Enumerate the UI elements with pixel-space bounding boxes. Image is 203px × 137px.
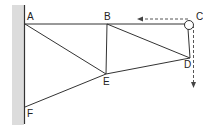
pulley-icon	[185, 21, 194, 30]
label-d: D	[184, 60, 191, 70]
arrowhead-down-icon	[191, 82, 196, 88]
member-ae	[25, 24, 106, 74]
member-be	[106, 24, 107, 74]
member-bd	[107, 24, 190, 58]
member-fe	[25, 74, 106, 107]
arrowhead-left-icon	[137, 17, 143, 22]
label-a: A	[27, 12, 34, 22]
label-e: E	[103, 77, 110, 87]
label-b: B	[104, 12, 111, 22]
label-f: F	[27, 109, 33, 119]
label-c: C	[196, 12, 203, 22]
wall	[12, 5, 24, 125]
member-cd	[188, 29, 190, 58]
member-ed	[106, 58, 190, 74]
